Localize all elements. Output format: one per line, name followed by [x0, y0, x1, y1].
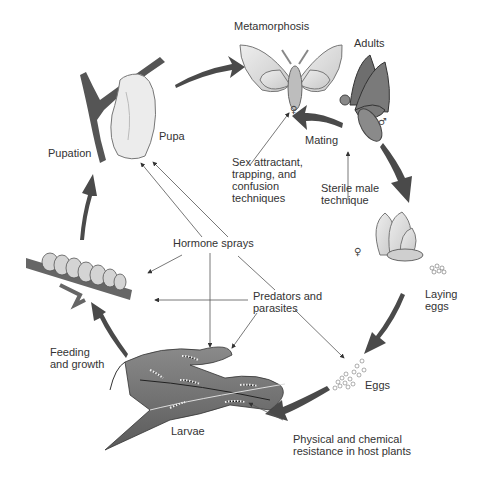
label-laying-eggs: Laying eggs	[425, 288, 457, 312]
label-pupa: Pupa	[159, 130, 185, 142]
label-feeding-and-growth: Feeding and growth	[50, 346, 104, 370]
cycle-arrow-mating	[292, 105, 343, 130]
hormone-to-predators-connector	[238, 256, 275, 290]
label-pupation: Pupation	[48, 147, 91, 159]
pupa-illustration	[80, 57, 165, 163]
eggs-illustration	[333, 359, 366, 390]
female-symbol-laying: ♀	[354, 246, 361, 257]
label-sterile-male: Sterile male technique	[321, 182, 379, 206]
male-symbol: ♂	[378, 116, 387, 127]
label-hormone-sprays: Hormone sprays	[173, 237, 254, 249]
label-predators-parasites: Predators and parasites	[253, 290, 322, 314]
label-host-resistance: Physical and chemical resistance in host…	[293, 433, 411, 457]
label-larvae: Larvae	[171, 425, 205, 437]
egg-laying-moth-illustration	[376, 212, 446, 274]
caterpillar-illustration	[26, 253, 132, 305]
cycle-arrow-pupa-to-adult	[175, 56, 245, 88]
cycle-arrow-laying-to-eggs	[364, 293, 405, 354]
female-symbol: ♀	[290, 104, 297, 115]
cycle-arrow-adult-to-laying	[380, 143, 412, 203]
life-cycle-diagram: Metamorphosis Adults Mating Laying eggs …	[0, 0, 486, 483]
label-sex-attractant: Sex attractant, trapping, and confusion …	[232, 156, 303, 204]
male-moth-illustration	[340, 55, 389, 145]
label-metamorphosis: Metamorphosis	[234, 20, 309, 32]
label-adults: Adults	[354, 37, 385, 49]
female-moth-illustration	[240, 45, 342, 110]
label-eggs: Eggs	[365, 379, 390, 391]
cycle-arrow-feeding-to-pupation	[80, 174, 97, 240]
label-mating: Mating	[305, 134, 338, 146]
